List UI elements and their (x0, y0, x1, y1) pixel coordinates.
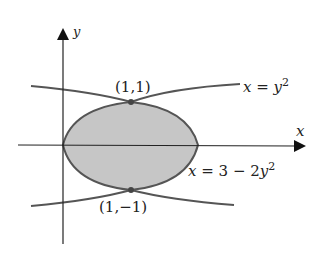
y-axis-label: y (73, 24, 80, 39)
x-axis-arrow-icon (294, 140, 306, 152)
diagram-graphics (0, 0, 329, 253)
y-axis-arrow-icon (57, 28, 69, 40)
equation-x-eq-3-minus-2y2: x = 3 − 2y2 (188, 160, 275, 180)
point-1-1 (128, 99, 134, 105)
point-label-1-1: (1,1) (115, 78, 151, 96)
point-label-1-neg1: (1,−1) (99, 198, 147, 216)
point-1-neg1 (128, 187, 134, 193)
x-axis-label: x (296, 122, 304, 140)
x-axis (18, 145, 298, 146)
diagram: y x (1,1) (1,−1) x = y2 x = 3 − 2y2 (0, 0, 329, 253)
equation-x-eq-y2: x = y2 (243, 76, 289, 96)
